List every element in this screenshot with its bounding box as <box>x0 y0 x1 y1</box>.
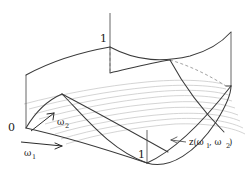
function-label-mid: , ω <box>209 137 221 147</box>
edge-back-top <box>110 32 231 60</box>
omega1-label: ω 1 <box>24 148 36 161</box>
edge-mid-upper-front <box>110 60 170 73</box>
function-label-open: z(ω <box>189 137 204 147</box>
function-label-close: ) <box>229 137 232 147</box>
surface-mesh-lines <box>24 80 245 144</box>
edge-base-front <box>26 128 147 163</box>
tick-label-bottom: 1 <box>138 148 145 161</box>
omega2-label: ω 2 <box>57 117 69 130</box>
omega1-label-subscript: 1 <box>32 153 36 161</box>
omega2-label-subscript: 2 <box>65 122 69 130</box>
origin-label: 0 <box>8 121 15 134</box>
edge-back-left <box>26 47 110 75</box>
surface-plot-svg: 0 1 1 ω 2 ω 1 z(ω 1 , ω 2 ) <box>0 0 247 180</box>
function-label: z(ω 1 , ω 2 ) <box>189 137 232 150</box>
omega2-label-base: ω <box>57 117 64 127</box>
figure-canvas: 0 1 1 ω 2 ω 1 z(ω 1 , ω 2 ) <box>0 0 247 180</box>
omega1-label-base: ω <box>24 148 31 158</box>
tick-label-top: 1 <box>100 32 107 45</box>
dashed-diagonal-right <box>170 60 226 86</box>
